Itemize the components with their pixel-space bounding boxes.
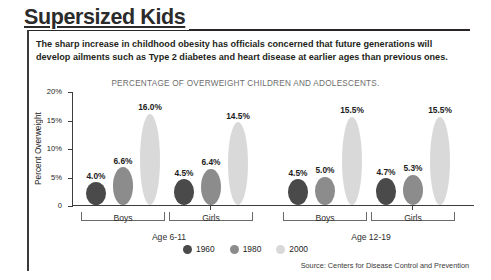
x-axis-line (72, 205, 474, 206)
y-axis-tick-label: 10% (47, 144, 62, 153)
bar-value-label: 4.5% (288, 168, 307, 178)
x-axis-tick (412, 205, 413, 210)
bar-value-label: 16.0% (138, 102, 162, 112)
left-border-rule (27, 29, 29, 271)
x-axis-tick (210, 205, 211, 210)
category-label: Boys (81, 213, 165, 223)
source-credit: Source: Centers for Disease Control and … (301, 261, 469, 270)
bar-value-label: 4.7% (376, 167, 395, 177)
chart-bar: 14.5% (228, 122, 248, 205)
chart-legend: 196019802000 (0, 244, 491, 254)
y-axis-tick: 20% (68, 92, 73, 93)
category-label: Girls (371, 213, 455, 223)
chart-bar: 16.0% (140, 114, 160, 205)
age-group-label: Age 12-19 (283, 232, 459, 242)
intro-paragraph: The sharp increase in childhood obesity … (36, 38, 466, 64)
y-axis-title: Percent Overweight (32, 92, 44, 206)
legend-label: 1980 (243, 244, 262, 254)
chart-bar: 6.6% (113, 167, 133, 205)
bar-value-label: 5.0% (315, 165, 334, 175)
legend-label: 1960 (196, 244, 215, 254)
chart-bar: 4.7% (376, 178, 396, 205)
chart-plot-area: 05%10%15%20% 4.0%6.6%16.0%4.5%6.4%14.5%4… (72, 92, 474, 206)
legend-item: 1980 (230, 244, 262, 254)
category-label: Girls (169, 213, 253, 223)
y-axis-tick: 10% (68, 149, 73, 150)
y-axis-tick-label: 5% (51, 173, 62, 182)
y-axis-tick: 15% (68, 121, 73, 122)
category-label: Boys (283, 213, 367, 223)
legend-swatch (276, 245, 285, 254)
bar-value-label: 5.3% (403, 163, 422, 173)
y-axis-tick-label: 20% (47, 87, 62, 96)
chart-bar: 5.3% (403, 175, 423, 205)
bar-value-label: 6.6% (113, 156, 132, 166)
legend-swatch (183, 245, 192, 254)
bar-value-label: 4.5% (174, 168, 193, 178)
infographic-root: Supersized Kids The sharp increase in ch… (0, 0, 491, 280)
chart-bar: 15.5% (342, 117, 362, 205)
chart-bar: 5.0% (315, 177, 335, 206)
y-axis-tick-label: 15% (47, 116, 62, 125)
legend-item: 2000 (276, 244, 308, 254)
bar-value-label: 14.5% (226, 111, 250, 121)
y-axis-tick: 5% (68, 178, 73, 179)
bar-value-label: 6.4% (201, 157, 220, 167)
chart-bar: 4.0% (86, 182, 106, 205)
bar-value-label: 4.0% (86, 171, 105, 181)
legend-swatch (230, 245, 239, 254)
chart-title: PERCENTAGE OF OVERWEIGHT CHILDREN AND AD… (0, 79, 491, 88)
bar-value-label: 15.5% (428, 105, 452, 115)
chart-bar: 4.5% (288, 179, 308, 205)
chart-bar: 4.5% (174, 179, 194, 205)
age-group-label: Age 6-11 (81, 232, 257, 242)
y-axis-tick-label: 0 (58, 201, 62, 210)
legend-label: 2000 (289, 244, 308, 254)
y-axis-tick: 0 (68, 206, 73, 207)
chart-bar: 15.5% (430, 117, 450, 205)
legend-item: 1960 (183, 244, 215, 254)
bar-value-label: 15.5% (340, 105, 364, 115)
page-title: Supersized Kids (22, 5, 189, 30)
chart-bar: 6.4% (201, 169, 221, 205)
